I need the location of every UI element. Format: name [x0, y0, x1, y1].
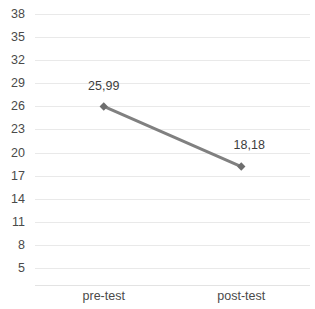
gridline [35, 129, 310, 130]
y-axis-tick-label: 20 [0, 146, 25, 159]
y-axis-tick-label: 17 [0, 169, 25, 182]
gridline [35, 14, 310, 15]
y-axis-tick-label: 38 [0, 8, 25, 21]
gridline [35, 37, 310, 38]
gridline [35, 176, 310, 177]
gridline [35, 245, 310, 246]
gridline [35, 106, 310, 107]
y-axis-tick-label: 23 [0, 123, 25, 136]
line-chart: 3835322926232017141185 pre-testpost-test… [0, 0, 315, 309]
gridline [35, 222, 310, 223]
y-axis-tick-label: 5 [0, 262, 25, 275]
y-axis-tick-label: 14 [0, 192, 25, 205]
gridline [35, 83, 310, 84]
plot-area: 3835322926232017141185 [35, 14, 310, 268]
y-axis-tick-label: 11 [0, 216, 25, 229]
gridline [35, 199, 310, 200]
data-point-value-label: 25,99 [88, 80, 119, 93]
y-axis-tick-label: 26 [0, 100, 25, 113]
gridline [35, 153, 310, 154]
y-axis-tick-label: 32 [0, 54, 25, 67]
gridline [35, 60, 310, 61]
y-axis-tick-label: 35 [0, 31, 25, 44]
gridline [35, 268, 310, 269]
data-point-value-label: 18,18 [234, 138, 265, 151]
y-axis-tick-label: 29 [0, 77, 25, 90]
y-axis-tick-label: 8 [0, 239, 25, 252]
x-axis-tick-label: pre-test [83, 290, 125, 303]
x-axis-tick-label: post-test [217, 290, 265, 303]
x-axis-line [35, 285, 310, 286]
